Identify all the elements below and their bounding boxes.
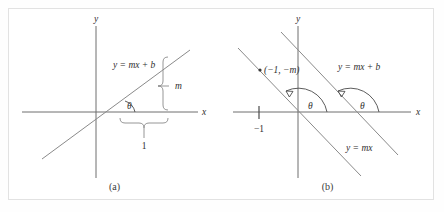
panel-a: x y y = mx + b θ m 1 (a): [8, 8, 221, 200]
angle-label-right-b: θ: [360, 101, 365, 111]
point-marker-b: [258, 68, 261, 71]
rise-label-a: m: [175, 81, 182, 91]
x-axis-label-a: x: [201, 107, 207, 117]
line-label-a: y = mx + b: [112, 60, 156, 70]
angle-arrow-right-b: [338, 91, 345, 97]
angle-arrow-left-b: [286, 91, 293, 97]
panel-b-plot: x y (−1, −m) y = mx + b y = mx −1 θ θ: [221, 8, 434, 200]
caption-a: (a): [8, 181, 221, 192]
point-label-b: (−1, −m): [264, 65, 300, 76]
y-axis-label-a: y: [93, 14, 99, 24]
x-axis-label-b: x: [415, 107, 421, 117]
figure-container: x y y = mx + b θ m 1 (a): [0, 0, 444, 212]
run-label-a: 1: [142, 141, 147, 151]
x-tick-label-minus-1-b: −1: [254, 124, 264, 134]
caption-b: (b): [221, 181, 434, 192]
rise-brace-a: [158, 57, 168, 110]
line-label-upper-b: y = mx + b: [337, 62, 381, 72]
panel-a-plot: x y y = mx + b θ m 1: [8, 8, 221, 200]
panel-b: x y (−1, −m) y = mx + b y = mx −1 θ θ (b…: [221, 8, 434, 200]
line-label-lower-b: y = mx: [345, 143, 373, 153]
y-axis-label-b: y: [295, 14, 301, 24]
angle-label-left-b: θ: [308, 101, 313, 111]
run-brace-a: [120, 118, 168, 128]
angle-label-a: θ: [127, 101, 132, 111]
